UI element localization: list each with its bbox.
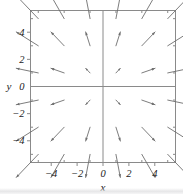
- y-axis-title: y: [6, 80, 12, 92]
- y-tick-label: −4: [12, 135, 25, 146]
- x-tick-label: −2: [71, 168, 84, 179]
- vector-field-figure: −4−2024−4−2024 xy: [0, 0, 183, 194]
- vector-arrow-shaft: [16, 154, 38, 177]
- y-tick-label: 4: [19, 27, 25, 38]
- x-tick-label: 4: [152, 168, 158, 179]
- y-tick-label: 2: [19, 54, 25, 65]
- x-tick-label: 2: [126, 168, 132, 179]
- y-tick-label: −2: [12, 108, 25, 119]
- x-tick-label: −4: [45, 168, 58, 179]
- vector-field-plot: −4−2024−4−2024 xy: [0, 0, 183, 194]
- y-tick-label: 0: [19, 81, 25, 92]
- x-axis-title: x: [100, 181, 106, 193]
- x-tick-label: 0: [100, 168, 106, 179]
